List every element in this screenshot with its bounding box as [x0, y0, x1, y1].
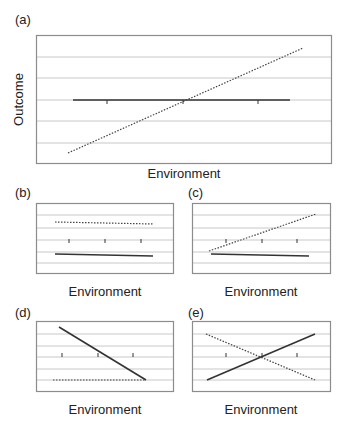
panel-d-plot — [36, 322, 174, 392]
figure-plots — [0, 0, 349, 426]
panel-c-solid-line — [211, 254, 309, 256]
panel-c-dotted-line — [209, 214, 316, 251]
panel-d-gridlines — [36, 334, 174, 380]
panel-b-solid-line — [55, 254, 153, 256]
panel-b-dotted-line — [55, 222, 154, 224]
panel-e-plot — [192, 322, 331, 392]
panel-d-ticks — [62, 353, 133, 357]
panel-c-plot — [192, 204, 331, 274]
panel-b-plot — [36, 204, 174, 274]
panel-a-plot — [36, 36, 332, 164]
